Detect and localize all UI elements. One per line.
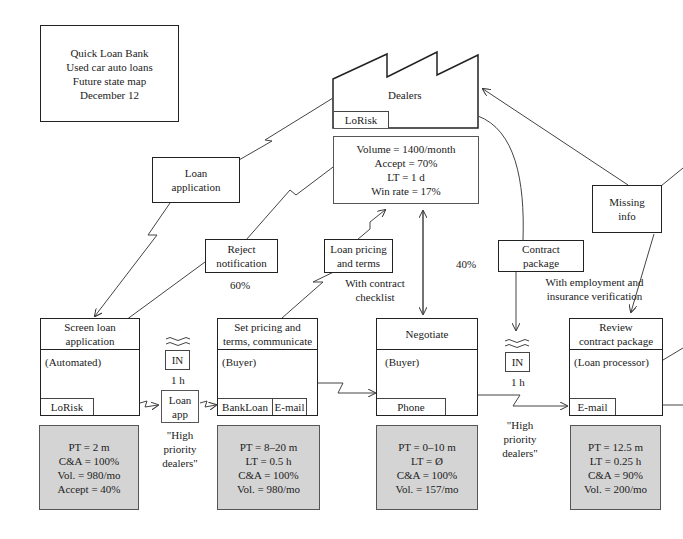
- loan-app-line: Loan: [169, 393, 192, 407]
- process-system: LoRisk: [41, 398, 94, 415]
- loan-app-box: Loan app: [161, 390, 199, 423]
- title-line: Used car auto loans: [66, 60, 152, 74]
- dealers-system: LoRisk: [334, 111, 389, 128]
- data-line: C&A = 100%: [238, 468, 299, 482]
- data-line: PT = 2 m: [68, 440, 109, 454]
- priority-note: "High priority dealers": [495, 418, 545, 460]
- note-line: With contract: [345, 276, 405, 290]
- flow-label: application: [172, 180, 221, 194]
- data-line: LT = 0.5 h: [246, 454, 292, 468]
- note-line: priority: [504, 432, 537, 446]
- process-data-box: PT = 0–10 m LT = Ø C&A = 100% Vol. = 157…: [376, 425, 478, 510]
- process-set-pricing: Set pricing and terms, communicate (Buye…: [217, 318, 318, 416]
- process-title-line: Screen loan: [64, 320, 116, 334]
- process-system: E-mail: [273, 398, 307, 415]
- flow-label: Loan: [185, 166, 208, 180]
- loan-app-line: app: [172, 407, 188, 421]
- flow-label: notification: [216, 256, 267, 270]
- data-line: C&A = 100%: [59, 454, 120, 468]
- title-line: Quick Loan Bank: [70, 46, 148, 60]
- data-line: PT = 12.5 m: [588, 440, 643, 454]
- negotiate-percent: 40%: [456, 257, 476, 271]
- dealers-data-line: Win rate = 17%: [371, 184, 441, 198]
- process-title: Negotiate: [377, 319, 477, 350]
- process-title: Screen loan application: [41, 319, 139, 350]
- note-line: dealers": [502, 446, 538, 460]
- dealers-data-line: Accept = 70%: [374, 156, 437, 170]
- loan-application-flow: Loan application: [152, 157, 240, 203]
- process-title-line: contract package: [579, 334, 653, 348]
- process-system: E-mail: [570, 398, 616, 415]
- process-role: (Automated): [45, 355, 101, 369]
- process-title-line: Review: [599, 320, 633, 334]
- flow-label: Reject: [227, 242, 255, 256]
- reject-notification-flow: Reject notification: [205, 239, 278, 273]
- process-role: (Buyer): [222, 355, 256, 369]
- loan-pricing-note: With contract checklist: [345, 276, 405, 304]
- data-line: Accept = 40%: [57, 482, 120, 496]
- process-review-contract: Review contract package (Loan processor)…: [569, 318, 663, 416]
- reject-percent: 60%: [230, 278, 250, 292]
- priority-note: "High priority dealers": [155, 428, 205, 470]
- process-system: Phone: [377, 398, 446, 415]
- data-line: Vol. = 200/mo: [584, 482, 647, 496]
- title-line: Future state map: [73, 74, 146, 88]
- data-line: LT = 0.25 h: [590, 454, 641, 468]
- flow-label: info: [618, 209, 636, 223]
- data-line: PT = 0–10 m: [398, 440, 456, 454]
- data-line: Vol. = 157/mo: [395, 482, 458, 496]
- note-line: "High: [167, 428, 194, 442]
- flow-label: Contract: [522, 242, 560, 256]
- note-line: priority: [164, 442, 197, 456]
- data-line: C&A = 90%: [588, 468, 643, 482]
- process-title-line: terms, communicate: [223, 334, 312, 348]
- process-role: (Buyer): [385, 355, 419, 369]
- note-line: "High: [507, 418, 534, 432]
- flow-label: package: [523, 256, 559, 270]
- dealers-data-line: LT = 1 d: [387, 170, 425, 184]
- inventory-time: 1 h: [171, 373, 185, 387]
- title-box: Quick Loan Bank Used car auto loans Futu…: [40, 25, 179, 122]
- process-title: Set pricing and terms, communicate: [218, 319, 317, 350]
- dealers-data-line: Volume = 1400/month: [357, 142, 456, 156]
- note-line: insurance verification: [547, 289, 643, 303]
- contract-package-flow: Contract package: [498, 240, 584, 272]
- process-data-box: PT = 8–20 m LT = 0.5 h C&A = 100% Vol. =…: [217, 425, 320, 510]
- process-negotiate: Negotiate (Buyer) Phone: [376, 318, 478, 416]
- data-line: Vol. = 980/mo: [237, 482, 300, 496]
- note-line: checklist: [355, 290, 394, 304]
- flow-label: and terms: [337, 256, 380, 270]
- process-title-line: Negotiate: [406, 327, 449, 341]
- process-data-box: PT = 2 m C&A = 100% Vol. = 980/mo Accept…: [39, 425, 139, 510]
- missing-info-flow: Missing info: [592, 185, 662, 233]
- loan-pricing-flow: Loan pricing and terms: [324, 239, 393, 273]
- data-line: Vol. = 980/mo: [57, 468, 120, 482]
- title-line: December 12: [80, 88, 139, 102]
- flow-label: Loan pricing: [330, 242, 387, 256]
- inventory-box: IN: [165, 350, 190, 370]
- data-line: LT = Ø: [411, 454, 443, 468]
- process-data-box: PT = 12.5 m LT = 0.25 h C&A = 90% Vol. =…: [570, 425, 661, 510]
- process-system: BankLoan: [218, 398, 273, 415]
- process-title-line: Set pricing and: [234, 320, 301, 334]
- flow-label: Missing: [609, 195, 644, 209]
- data-line: PT = 8–20 m: [240, 440, 298, 454]
- process-title-line: application: [66, 334, 115, 348]
- dealers-label: Dealers: [388, 88, 422, 102]
- process-screen-loan: Screen loan application (Automated) LoRi…: [40, 318, 140, 416]
- note-line: dealers": [162, 456, 198, 470]
- contract-package-note: With employment and insurance verificati…: [532, 275, 657, 303]
- data-line: C&A = 100%: [397, 468, 458, 482]
- inventory-time: 1 h: [511, 375, 525, 389]
- dealers-data-box: Volume = 1400/month Accept = 70% LT = 1 …: [333, 136, 479, 204]
- inventory-box: IN: [505, 352, 530, 372]
- note-line: With employment and: [546, 275, 644, 289]
- process-role: (Loan processor): [574, 355, 649, 369]
- process-title: Review contract package: [570, 319, 662, 350]
